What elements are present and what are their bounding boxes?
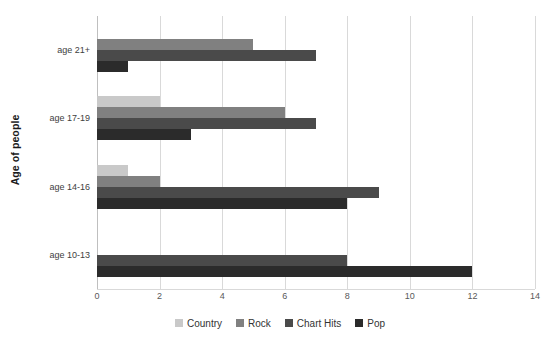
y-axis-tick-label: age 21+ bbox=[30, 16, 96, 84]
bar-group bbox=[97, 221, 535, 289]
x-axis-line bbox=[97, 289, 535, 290]
bar-chart: Age of people age 21+ age 17-19 age 14-1… bbox=[0, 0, 560, 341]
bar-group bbox=[97, 84, 535, 152]
bar-row bbox=[97, 244, 535, 255]
bar[interactable] bbox=[97, 176, 160, 187]
bar-row bbox=[97, 28, 535, 39]
bar-row bbox=[97, 176, 535, 187]
x-axis-tick-labels: 02468101214 bbox=[97, 291, 535, 307]
x-axis-tick-label: 12 bbox=[467, 291, 477, 301]
x-axis-tick-label: 6 bbox=[282, 291, 287, 301]
bar-row bbox=[97, 118, 535, 129]
bar-row bbox=[97, 96, 535, 107]
chart-title bbox=[0, 0, 560, 8]
bar-row bbox=[97, 50, 535, 61]
legend-item[interactable]: Rock bbox=[236, 318, 271, 329]
y-axis-tick-label: age 10-13 bbox=[30, 221, 96, 289]
bar-group bbox=[97, 16, 535, 84]
legend-swatch-icon bbox=[236, 319, 244, 327]
bar[interactable] bbox=[97, 165, 128, 176]
x-axis-tick-label: 2 bbox=[157, 291, 162, 301]
bar-row bbox=[97, 255, 535, 266]
bar[interactable] bbox=[97, 50, 316, 61]
x-axis-tick-label: 0 bbox=[94, 291, 99, 301]
bar[interactable] bbox=[97, 96, 160, 107]
bar[interactable] bbox=[97, 129, 191, 140]
x-axis-tick-label: 4 bbox=[220, 291, 225, 301]
y-axis-title-label: Age of people bbox=[9, 115, 21, 186]
legend-swatch-icon bbox=[285, 319, 293, 327]
bar[interactable] bbox=[97, 61, 128, 72]
bar-row bbox=[97, 129, 535, 140]
y-axis-tick-label: age 17-19 bbox=[30, 84, 96, 152]
y-axis-category-labels: age 21+ age 17-19 age 14-16 age 10-13 bbox=[30, 16, 96, 289]
legend-item[interactable]: Chart Hits bbox=[285, 318, 341, 329]
chart-legend: CountryRockChart HitsPop bbox=[0, 313, 560, 333]
legend-label: Rock bbox=[248, 318, 271, 329]
bar-row bbox=[97, 187, 535, 198]
bar[interactable] bbox=[97, 39, 253, 50]
y-axis-tick-label: age 14-16 bbox=[30, 153, 96, 221]
bar-row bbox=[97, 39, 535, 50]
legend-label: Chart Hits bbox=[297, 318, 341, 329]
bar-group bbox=[97, 153, 535, 221]
bar-row bbox=[97, 233, 535, 244]
bar-row bbox=[97, 165, 535, 176]
bar[interactable] bbox=[97, 255, 347, 266]
gridline bbox=[535, 16, 536, 289]
plot-area bbox=[97, 16, 535, 289]
y-axis-title: Age of people bbox=[0, 0, 30, 300]
x-axis-tick-label: 8 bbox=[345, 291, 350, 301]
legend-item[interactable]: Country bbox=[175, 318, 222, 329]
x-axis-tick-label: 14 bbox=[530, 291, 540, 301]
legend-swatch-icon bbox=[355, 319, 363, 327]
x-axis-tick-label: 10 bbox=[405, 291, 415, 301]
bar-row bbox=[97, 61, 535, 72]
legend-label: Country bbox=[187, 318, 222, 329]
legend-item[interactable]: Pop bbox=[355, 318, 385, 329]
legend-label: Pop bbox=[367, 318, 385, 329]
bar-row bbox=[97, 266, 535, 277]
bar-groups bbox=[97, 16, 535, 289]
bar[interactable] bbox=[97, 107, 285, 118]
bar[interactable] bbox=[97, 266, 472, 277]
bar-row bbox=[97, 107, 535, 118]
bar-row bbox=[97, 198, 535, 209]
bar[interactable] bbox=[97, 187, 379, 198]
bar[interactable] bbox=[97, 118, 316, 129]
bar[interactable] bbox=[97, 198, 347, 209]
legend-swatch-icon bbox=[175, 319, 183, 327]
